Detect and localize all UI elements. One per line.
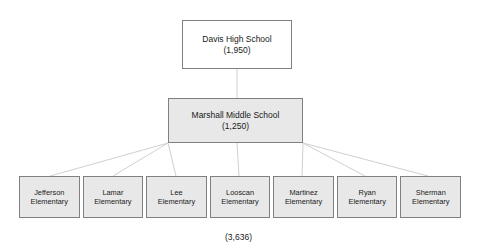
node-label-line1: Ryan — [359, 188, 376, 197]
node-sherman-elementary: Sherman Elementary — [400, 176, 461, 218]
node-label-line2: Elementary — [348, 197, 385, 206]
node-label-line1: Jefferson — [34, 188, 64, 197]
elementary-school-row: Jefferson Elementary Lamar Elementary Le… — [19, 176, 461, 218]
node-ryan-elementary: Ryan Elementary — [337, 176, 398, 218]
connector-middle-to-looscan — [237, 143, 239, 176]
connector-middle-to-martinez — [302, 143, 303, 176]
node-label-line2: Elementary — [412, 197, 449, 206]
org-chart: Davis High School (1,950) Marshall Middl… — [0, 0, 477, 251]
node-label-high-school: Davis High School — [202, 34, 271, 45]
node-count-middle-school: (1,250) — [222, 121, 249, 132]
node-label-middle-school: Marshall Middle School — [192, 110, 280, 121]
connector-middle-to-lee — [168, 143, 176, 176]
node-lamar-elementary: Lamar Elementary — [83, 176, 144, 218]
total-count-label: (3,636) — [0, 232, 477, 242]
node-label-line1: Lee — [170, 188, 182, 197]
connector-middle-to-sherman — [303, 143, 428, 176]
node-lee-elementary: Lee Elementary — [146, 176, 207, 218]
node-davis-high-school: Davis High School (1,950) — [182, 20, 292, 69]
node-label-line1: Looscan — [226, 188, 254, 197]
node-label-line1: Sherman — [416, 188, 446, 197]
node-label-line2: Elementary — [158, 197, 195, 206]
node-count-high-school: (1,950) — [224, 45, 251, 56]
node-label-line2: Elementary — [221, 197, 258, 206]
connector-middle-to-ryan — [303, 143, 365, 176]
connector-middle-to-lamar — [113, 143, 168, 176]
node-looscan-elementary: Looscan Elementary — [210, 176, 271, 218]
node-label-line1: Martinez — [289, 188, 317, 197]
node-martinez-elementary: Martinez Elementary — [273, 176, 334, 218]
node-label-line2: Elementary — [94, 197, 131, 206]
node-marshall-middle-school: Marshall Middle School (1,250) — [168, 98, 303, 143]
node-jefferson-elementary: Jefferson Elementary — [19, 176, 80, 218]
node-label-line2: Elementary — [31, 197, 68, 206]
connector-middle-to-jefferson — [50, 143, 168, 176]
node-label-line2: Elementary — [285, 197, 322, 206]
node-label-line1: Lamar — [102, 188, 123, 197]
